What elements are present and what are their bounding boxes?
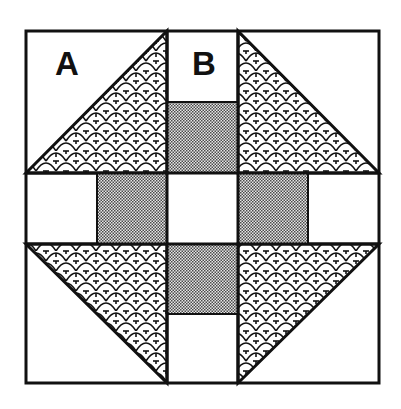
label-a: A bbox=[55, 45, 79, 82]
center-top-gray-rect bbox=[167, 102, 238, 173]
label-b: B bbox=[192, 45, 216, 82]
block-background bbox=[26, 31, 379, 383]
middle-left-gray-rect bbox=[97, 173, 167, 244]
center-bottom-gray-rect bbox=[167, 244, 238, 314]
middle-right-gray-rect bbox=[238, 173, 308, 244]
quilt-block-diagram: A B bbox=[0, 0, 401, 409]
